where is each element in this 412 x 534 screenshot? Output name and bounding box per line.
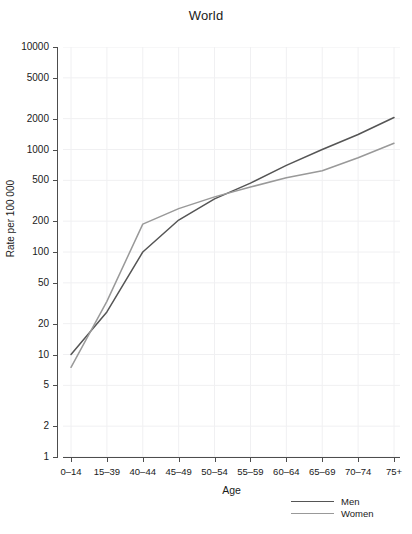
y-tick-label: 1 (0, 452, 58, 462)
legend-label: Women (341, 508, 374, 519)
y-tick-label: 1000 (0, 145, 58, 155)
chart-figure: World Rate per 100 000 12510205010020050… (0, 0, 412, 534)
y-tick-label: 50 (0, 278, 58, 288)
y-tick-label: 2 (0, 421, 58, 431)
x-tick-label: 50–54 (201, 466, 227, 478)
y-axis-tick-labels: 12510205010020050010002000500010000 (0, 47, 58, 457)
legend-item-women[interactable]: Women (291, 507, 374, 519)
plot-svg (63, 47, 400, 457)
y-tick-label: 200 (0, 216, 58, 226)
y-tick-label: 500 (0, 175, 58, 185)
x-tick-label: 75+ (386, 466, 402, 478)
y-tick-mark (53, 457, 58, 458)
chart-title: World (0, 8, 412, 23)
legend-label: Men (341, 496, 359, 507)
x-tick-label: 0–14 (60, 466, 81, 478)
x-tick-label: 55–59 (237, 466, 263, 478)
legend-swatch-women (291, 513, 334, 514)
y-tick-label: 10 (0, 350, 58, 360)
y-tick-label: 100 (0, 247, 58, 257)
x-tick-label: 45–49 (165, 466, 191, 478)
plot-area (63, 47, 400, 457)
x-tick-label: 70–74 (345, 466, 371, 478)
y-tick-label: 5 (0, 380, 58, 390)
y-axis-spine (57, 47, 58, 457)
x-tick-label: 40–44 (130, 466, 156, 478)
x-axis-spine (63, 457, 400, 458)
x-axis-tick-labels: 0–1415–3940–4445–4950–5455–5960–6465–697… (63, 462, 400, 476)
x-tick-label: 60–64 (273, 466, 299, 478)
series-line-men (71, 118, 394, 355)
y-tick-label: 20 (0, 319, 58, 329)
x-tick-label: 65–69 (309, 466, 335, 478)
y-tick-label: 5000 (0, 73, 58, 83)
y-tick-label: 10000 (0, 42, 58, 52)
y-tick-label: 2000 (0, 114, 58, 124)
x-tick-label: 15–39 (94, 466, 120, 478)
series-line-women (71, 143, 394, 367)
legend-swatch-men (291, 501, 334, 502)
chart-legend: MenWomen (291, 495, 403, 525)
legend-item-men[interactable]: Men (291, 495, 359, 507)
